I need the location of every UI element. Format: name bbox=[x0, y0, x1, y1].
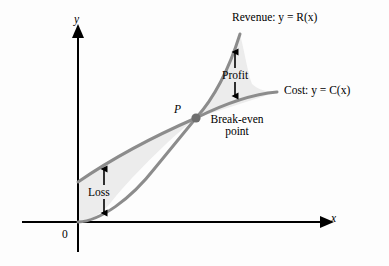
profit-region-label: Profit bbox=[222, 69, 248, 81]
origin-label: 0 bbox=[62, 228, 68, 240]
figure-canvas: y x 0 Revenue: y = R(x) Cost: y = C(x) P… bbox=[0, 0, 389, 266]
loss-region-label: Loss bbox=[88, 186, 110, 198]
economics-figure-svg bbox=[0, 0, 389, 266]
break-even-label-line2: point bbox=[205, 125, 269, 137]
point-p-label: P bbox=[174, 103, 181, 115]
break-even-label-line1: Break-even bbox=[205, 113, 269, 125]
cost-curve-label: Cost: y = C(x) bbox=[284, 84, 350, 96]
break-even-label: Break-even point bbox=[205, 113, 269, 138]
y-axis-label: y bbox=[74, 13, 79, 25]
x-axis-label: x bbox=[331, 212, 336, 224]
revenue-curve-label: Revenue: y = R(x) bbox=[232, 11, 317, 23]
break-even-point-marker bbox=[191, 113, 200, 122]
